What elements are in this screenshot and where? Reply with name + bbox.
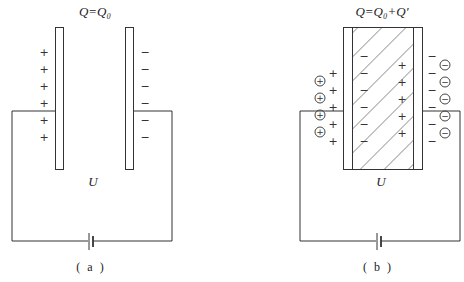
plus-sign: + xyxy=(397,60,406,71)
capacitor-diagram xyxy=(0,0,464,282)
plus-sign: + xyxy=(397,111,406,122)
circled-plus-icon: + xyxy=(315,110,326,121)
minus-sign: − xyxy=(359,85,368,96)
plus-sign: + xyxy=(39,98,48,109)
minus-sign: − xyxy=(427,68,436,79)
circled-plus-icon: + xyxy=(315,127,326,138)
plus-sign: + xyxy=(328,102,337,113)
panel-a-title: Q=Q₀ xyxy=(79,4,111,20)
circled-plus-icon: + xyxy=(315,76,326,87)
right-plate xyxy=(126,28,134,170)
plus-sign: + xyxy=(397,94,406,105)
plus-sign: + xyxy=(39,47,48,58)
circled-minus-icon: − xyxy=(440,77,451,88)
minus-sign: − xyxy=(359,102,368,113)
plus-sign: + xyxy=(39,132,48,143)
circled-minus-icon: − xyxy=(440,111,451,122)
minus-sign: − xyxy=(359,119,368,130)
plus-sign: + xyxy=(39,81,48,92)
circled-minus-icon: − xyxy=(440,128,451,139)
circled-minus-icon: − xyxy=(440,94,451,105)
minus-sign: − xyxy=(140,98,149,109)
minus-sign: − xyxy=(359,51,368,62)
left-plate xyxy=(56,28,64,170)
plus-sign: + xyxy=(397,128,406,139)
minus-sign: − xyxy=(427,102,436,113)
plus-sign: + xyxy=(328,85,337,96)
plus-sign: + xyxy=(328,68,337,79)
plus-sign: + xyxy=(39,64,48,75)
minus-sign: − xyxy=(140,81,149,92)
minus-sign: − xyxy=(140,64,149,75)
minus-sign: − xyxy=(427,51,436,62)
minus-sign: − xyxy=(427,85,436,96)
left-wire xyxy=(12,111,88,241)
panel-a-caption: ( a ) xyxy=(76,260,105,275)
panel-b-title: Q=Q₀+Q′ xyxy=(355,4,408,20)
minus-sign: − xyxy=(140,115,149,126)
plus-sign: + xyxy=(328,119,337,130)
plus-sign: + xyxy=(328,136,337,147)
minus-sign: − xyxy=(427,136,436,147)
plus-sign: + xyxy=(397,77,406,88)
circled-minus-icon: − xyxy=(440,60,451,71)
panel-a-voltage-label: U xyxy=(88,174,97,190)
circled-plus-icon: + xyxy=(315,93,326,104)
panel-b-caption: ( b ) xyxy=(363,260,393,275)
minus-sign: − xyxy=(140,47,149,58)
panel-b-voltage-label: U xyxy=(376,174,385,190)
plus-sign: + xyxy=(39,115,48,126)
minus-sign: − xyxy=(359,68,368,79)
minus-sign: − xyxy=(359,136,368,147)
minus-sign: − xyxy=(140,132,149,143)
minus-sign: − xyxy=(427,119,436,130)
